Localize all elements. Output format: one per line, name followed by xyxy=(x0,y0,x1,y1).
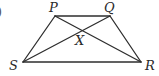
vertex-label-q: Q xyxy=(104,0,115,15)
trapezium-diagram: ) P Q R S X xyxy=(0,0,159,76)
edge-qr xyxy=(110,16,141,62)
vertex-label-r: R xyxy=(144,58,155,73)
edge-sp xyxy=(23,16,55,62)
intersection-label-x: X xyxy=(74,33,85,48)
vertex-label-s: S xyxy=(9,58,18,73)
vertex-label-p: P xyxy=(48,0,58,15)
partial-marker: ) xyxy=(0,4,2,19)
